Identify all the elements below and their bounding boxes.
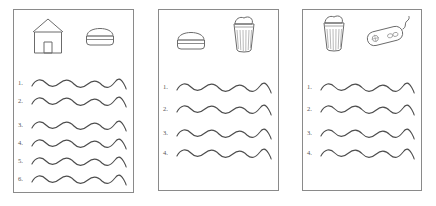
list-item: 1. xyxy=(307,78,417,96)
row-number: 1. xyxy=(163,82,175,91)
list-item: 4. xyxy=(163,144,274,162)
row-number: 2. xyxy=(307,104,319,113)
worksheet-canvas: 1. 2. 3. xyxy=(0,0,436,206)
list-item: 5. xyxy=(18,152,129,170)
row-number: 2. xyxy=(18,96,30,105)
panel-three-lines: 1. 2. 3. xyxy=(303,62,421,184)
panel-two: 1. 2. 3. xyxy=(158,9,279,191)
wavy-line xyxy=(176,124,273,142)
wavy-line xyxy=(320,124,416,142)
list-item: 4. xyxy=(18,134,129,152)
drink-cup-icon xyxy=(225,12,263,62)
list-item: 2. xyxy=(163,100,274,118)
panel-three-icon-row xyxy=(303,10,421,62)
burger-icon xyxy=(171,18,213,64)
wavy-line xyxy=(31,134,128,152)
row-number: 4. xyxy=(307,148,319,157)
panel-two-icon-row xyxy=(159,10,278,62)
list-item: 2. xyxy=(18,92,129,110)
list-item: 3. xyxy=(307,124,417,142)
burger-icon xyxy=(80,14,122,60)
wavy-line xyxy=(176,78,273,96)
row-number: 3. xyxy=(307,128,319,137)
list-item: 1. xyxy=(18,74,129,92)
panel-one-lines: 1. 2. 3. xyxy=(14,62,133,186)
row-number: 6. xyxy=(18,174,30,183)
row-number: 1. xyxy=(18,78,30,87)
list-item: 3. xyxy=(163,124,274,142)
row-number: 4. xyxy=(18,138,30,147)
row-number: 3. xyxy=(163,128,175,137)
list-item: 4. xyxy=(307,144,417,162)
panel-one-icon-row xyxy=(14,10,133,62)
drink-cup-icon xyxy=(315,11,353,61)
panel-one: 1. 2. 3. xyxy=(13,9,134,193)
panel-three: 1. 2. 3. xyxy=(302,9,422,191)
row-number: 5. xyxy=(18,156,30,165)
wavy-line xyxy=(320,78,416,96)
list-item: 3. xyxy=(18,116,129,134)
list-item: 2. xyxy=(307,100,417,118)
computer-mouse-icon xyxy=(363,16,413,60)
list-item: 6. xyxy=(18,170,129,188)
house-icon xyxy=(28,14,68,60)
wavy-line xyxy=(176,100,273,118)
row-number: 4. xyxy=(163,148,175,157)
row-number: 3. xyxy=(18,120,30,129)
row-number: 2. xyxy=(163,104,175,113)
wavy-line xyxy=(176,144,273,162)
wavy-line xyxy=(31,170,128,188)
list-item: 1. xyxy=(163,78,274,96)
row-number: 1. xyxy=(307,82,319,91)
wavy-line xyxy=(31,74,128,92)
wavy-line xyxy=(320,100,416,118)
wavy-line xyxy=(320,144,416,162)
panel-two-lines: 1. 2. 3. xyxy=(159,62,278,184)
wavy-line xyxy=(31,152,128,170)
wavy-line xyxy=(31,92,128,110)
wavy-line xyxy=(31,116,128,134)
